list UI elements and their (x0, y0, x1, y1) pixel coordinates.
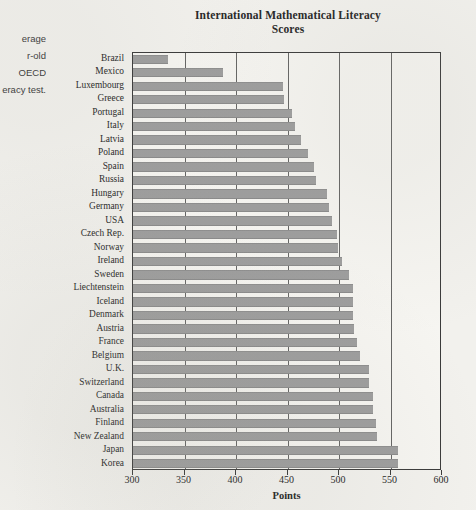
category-label: Germany (89, 200, 124, 213)
category-label: Liechtenstein (73, 281, 124, 294)
bar[interactable] (133, 257, 342, 266)
bar[interactable] (133, 55, 168, 64)
category-label: France (98, 335, 124, 348)
bar-row (133, 93, 440, 106)
bar[interactable] (133, 459, 398, 468)
bar-row (133, 66, 440, 79)
x-axis-tick-label: 450 (267, 474, 307, 485)
bar[interactable] (133, 311, 353, 320)
category-label: Sweden (94, 268, 124, 281)
bar-row (133, 404, 440, 417)
bar[interactable] (133, 392, 373, 401)
bar[interactable] (133, 405, 373, 414)
category-label: Portugal (92, 106, 124, 119)
bar-row (133, 242, 440, 255)
bar-row (133, 255, 440, 268)
bar-row (133, 174, 440, 187)
bar-row (133, 282, 440, 295)
category-label: Korea (101, 457, 124, 470)
bar[interactable] (133, 378, 369, 387)
category-label: Greece (97, 92, 124, 105)
category-label: Luxembourg (76, 79, 124, 92)
bar-row (133, 53, 440, 66)
bar-row (133, 417, 440, 430)
bar[interactable] (133, 109, 292, 118)
bar-row (133, 350, 440, 363)
bar[interactable] (133, 216, 332, 225)
bar-row (133, 390, 440, 403)
x-axis-tick-label: 550 (370, 474, 410, 485)
bar[interactable] (133, 351, 360, 360)
plot-area (132, 52, 441, 470)
bar[interactable] (133, 270, 349, 279)
bar-row (133, 80, 440, 93)
chart-title-line: Scores (130, 22, 446, 36)
category-label: Czech Rep. (81, 227, 124, 240)
bar-row (133, 269, 440, 282)
bar[interactable] (133, 95, 284, 104)
bar-row (133, 161, 440, 174)
chart-title: International Mathematical LiteracyScore… (130, 8, 446, 36)
bar[interactable] (133, 203, 329, 212)
bar-row (133, 215, 440, 228)
category-axis-labels: BrazilMexicoLuxembourgGreecePortugalItal… (40, 52, 128, 470)
category-label: New Zealand (74, 430, 124, 443)
bar[interactable] (133, 419, 376, 428)
bar[interactable] (133, 162, 314, 171)
x-axis-tick-label: 300 (112, 474, 152, 485)
bar-row (133, 134, 440, 147)
x-axis-title: Points (132, 490, 441, 501)
bar[interactable] (133, 365, 369, 374)
x-axis-tick-label: 400 (215, 474, 255, 485)
category-label: Switzerland (79, 376, 124, 389)
category-label: Russia (99, 173, 124, 186)
bar-row (133, 336, 440, 349)
category-label: Italy (107, 119, 124, 132)
category-label: Mexico (95, 65, 124, 78)
category-label: Latvia (100, 133, 124, 146)
bar-row (133, 309, 440, 322)
bar[interactable] (133, 230, 337, 239)
bar-row (133, 296, 440, 309)
bar[interactable] (133, 297, 353, 306)
bar[interactable] (133, 432, 377, 441)
bar-row (133, 120, 440, 133)
x-axis-tick-label: 350 (164, 474, 204, 485)
bar-row (133, 431, 440, 444)
bar-row (133, 363, 440, 376)
category-label: Brazil (101, 52, 124, 65)
category-label: Finland (95, 416, 124, 429)
category-label: Japan (103, 443, 124, 456)
bar-row (133, 323, 440, 336)
category-label: Norway (94, 241, 124, 254)
category-label: Austria (96, 322, 124, 335)
bar[interactable] (133, 446, 398, 455)
category-label: Iceland (96, 295, 124, 308)
bar[interactable] (133, 122, 295, 131)
bar-row (133, 458, 440, 471)
bar-row (133, 188, 440, 201)
category-label: Canada (96, 389, 124, 402)
bar[interactable] (133, 135, 301, 144)
bar-row (133, 377, 440, 390)
bar-row (133, 444, 440, 457)
bar[interactable] (133, 82, 283, 91)
bar[interactable] (133, 149, 308, 158)
x-axis-tick-label: 500 (318, 474, 358, 485)
bar[interactable] (133, 324, 354, 333)
bar-row (133, 107, 440, 120)
category-label: U.K. (106, 362, 124, 375)
chart-title-line: International Mathematical Literacy (130, 8, 446, 22)
category-label: USA (105, 214, 124, 227)
bar[interactable] (133, 176, 316, 185)
bar-row (133, 147, 440, 160)
bar[interactable] (133, 338, 357, 347)
bar[interactable] (133, 189, 327, 198)
bar[interactable] (133, 68, 223, 77)
category-label: Ireland (97, 254, 124, 267)
category-label: Australia (90, 403, 124, 416)
x-axis-tick-label: 600 (421, 474, 461, 485)
bar[interactable] (133, 243, 338, 252)
bar[interactable] (133, 284, 353, 293)
category-label: Poland (98, 146, 124, 159)
